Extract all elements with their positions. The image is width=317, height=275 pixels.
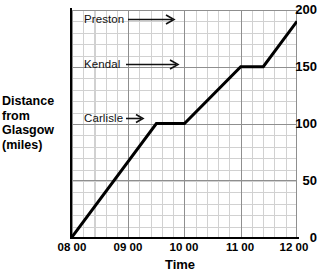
arrow-right-icon [120, 58, 186, 70]
x-axis-title: Time [120, 257, 240, 272]
y-axis-title-line-4: (miles) [2, 138, 68, 153]
y-tick-50: 50 [273, 174, 317, 187]
x-tick-0900: 09 00 [98, 241, 158, 253]
annotation-preston-label: Preston [84, 13, 124, 25]
annotation-carlisle: Carlisle [84, 112, 149, 124]
y-tick-100: 100 [273, 117, 317, 130]
y-axis-title-line-1: Distance [2, 94, 68, 109]
y-tick-200: 200 [273, 3, 317, 16]
annotation-preston: Preston [84, 13, 182, 25]
y-axis-title-line-3: Glasgow [2, 123, 68, 138]
annotation-carlisle-label: Carlisle [84, 112, 123, 124]
arrow-right-icon [124, 13, 182, 25]
annotation-kendal-label: Kendal [84, 58, 120, 70]
arrow-right-icon [123, 112, 149, 124]
x-axis-line [70, 237, 299, 239]
x-tick-0800: 08 00 [42, 241, 102, 253]
x-tick-1200: 12 00 [264, 241, 317, 253]
annotation-kendal: Kendal [84, 58, 186, 70]
x-tick-1000: 10 00 [154, 241, 214, 253]
y-axis-line [70, 8, 72, 239]
y-axis-title: Distance from Glasgow (miles) [2, 94, 68, 152]
y-axis-title-line-2: from [2, 109, 68, 124]
chart-figure: 200 150 100 50 0 08 00 09 00 10 00 11 00… [0, 0, 317, 275]
x-tick-1100: 11 00 [210, 241, 270, 253]
y-tick-150: 150 [273, 60, 317, 73]
